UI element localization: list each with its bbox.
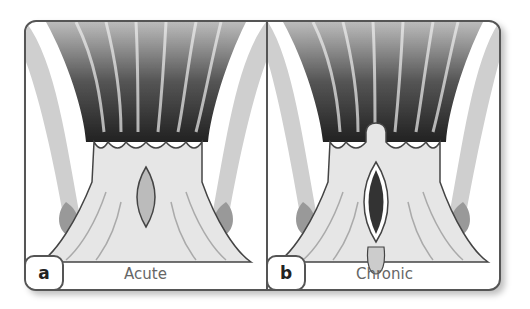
panel-chronic: b Chronic [268, 22, 499, 289]
figure-frame: a Acute [24, 20, 501, 291]
acute-fissure-illustration [26, 22, 266, 289]
panel-label-a: a [24, 255, 64, 291]
caption-acute: Acute [124, 265, 167, 283]
chronic-fissure-illustration [268, 22, 499, 289]
panel-acute: a Acute [26, 22, 266, 289]
caption-chronic: Chronic [356, 265, 413, 283]
panel-label-b: b [266, 255, 306, 291]
